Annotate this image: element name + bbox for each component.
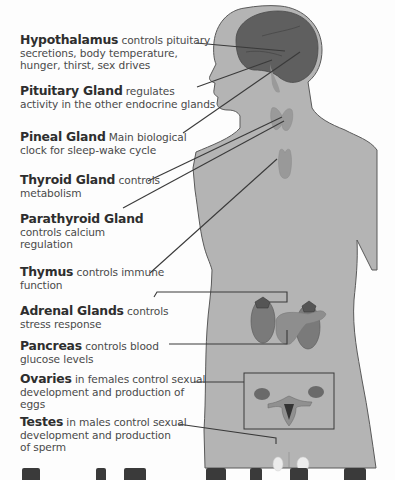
label-pineal-gland: Pineal Gland Main biological clock for s… xyxy=(20,131,186,156)
label-ovaries: Ovaries in females control sexual develo… xyxy=(20,373,205,411)
label-thyroid-gland: Thyroid Gland controls metabolism xyxy=(20,174,160,199)
ovary-left-icon xyxy=(254,388,270,400)
clipped-caption xyxy=(0,466,395,480)
thymus-icon xyxy=(279,149,292,178)
label-testes: Testes in males control sexual developme… xyxy=(20,416,187,454)
label-name: Hypothalamus xyxy=(20,32,118,47)
label-adrenal-glands: Adrenal Glands controls stress response xyxy=(20,305,168,330)
label-parathyroid-gland: Parathyroid Gland controls calcium regul… xyxy=(20,213,144,251)
ovary-right-icon xyxy=(308,386,324,398)
label-pancreas: Pancreas controls blood glucose levels xyxy=(20,340,159,365)
label-thymus: Thymus controls immune function xyxy=(20,266,164,291)
label-pituitary-gland: Pituitary Gland regulates activity in th… xyxy=(20,85,215,110)
label-hypothalamus: Hypothalamus controls pituitary secretio… xyxy=(20,34,210,72)
